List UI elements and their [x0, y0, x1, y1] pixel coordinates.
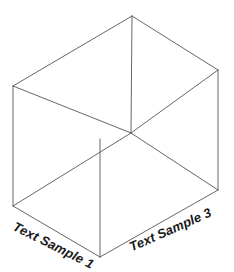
edge-bottom-back-left [13, 133, 131, 206]
edge-top-front-left [13, 86, 131, 133]
edge-top-back-left [13, 16, 132, 86]
edge-top-back-right [132, 16, 218, 70]
edge-vertical-back [131, 16, 132, 133]
figure-canvas: Text Sample 1 Text Sample 3 [0, 0, 234, 272]
edge-bottom-back-right [131, 133, 218, 190]
edge-top-front-right [131, 70, 218, 133]
